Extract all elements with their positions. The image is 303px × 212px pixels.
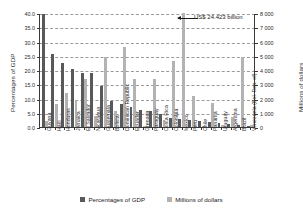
y-axis-left-tick-label: 10.0 — [9, 97, 35, 103]
x-axis-category-label: Honduras — [65, 108, 71, 131]
y-axis-right-tick — [255, 43, 258, 44]
chart-legend: Percentages of GDP Millions of dollars — [0, 196, 303, 203]
x-axis-category-label: Mexico — [183, 114, 189, 131]
bar-millions-of-dollars[interactable] — [241, 57, 244, 127]
x-axis-category-label: Nicaragua — [95, 107, 101, 131]
y-axis-right-tick-label: 5 000 — [260, 54, 286, 60]
y-axis-right-tick-label: 4 000 — [260, 68, 286, 74]
y-axis-right-tick-label: 0 — [260, 125, 286, 131]
y-axis-left-tick-label: 15.0 — [9, 82, 35, 88]
x-axis-category-label: Paraguay — [153, 108, 159, 131]
y-axis-right-tick-label: 7 000 — [260, 25, 286, 31]
bar-group[interactable] — [216, 13, 226, 127]
bar-percentage-of-gdp[interactable] — [81, 73, 84, 127]
y-axis-right-tick — [255, 71, 258, 72]
bar-group[interactable] — [196, 13, 206, 127]
bar-percentage-of-gdp[interactable] — [120, 104, 123, 127]
legend-swatch-millions — [167, 197, 172, 202]
y-axis-right-tick-label: 3 000 — [260, 82, 286, 88]
y-axis-right-tick — [255, 14, 258, 15]
bar-millions-of-dollars[interactable] — [182, 13, 185, 127]
bar-percentage-of-gdp[interactable] — [42, 14, 45, 127]
x-axis-category-label: El Salvador — [85, 104, 91, 131]
bar-group[interactable] — [50, 13, 60, 127]
bar-percentage-of-gdp[interactable] — [169, 118, 172, 127]
x-axis-category-label: Chile — [202, 119, 208, 131]
bar-percentage-of-gdp[interactable] — [130, 107, 133, 127]
legend-label-millions: Millions of dollars — [175, 196, 222, 203]
y-axis-left-tick-label: 20.0 — [9, 68, 35, 74]
x-axis-category-label: Dominican Republic — [124, 84, 130, 131]
x-axis-category-label: Venezuela (Bol. Rep. of) — [251, 74, 257, 131]
x-axis-category-label: Uruguay — [222, 111, 228, 131]
y-axis-left-tick-label: 30.0 — [9, 40, 35, 46]
x-axis-category-label: Grenada — [144, 110, 150, 131]
bar-group[interactable] — [40, 13, 50, 127]
x-axis-category-label: Panama — [212, 111, 218, 131]
y-axis-left-tick-label: 5.0 — [9, 111, 35, 117]
legend-swatch-percentages — [80, 197, 85, 202]
y-axis-right-title: Millions of dollars — [297, 63, 303, 112]
bar-percentage-of-gdp[interactable] — [71, 69, 74, 127]
y-axis-left-tick — [37, 128, 40, 129]
bar-group[interactable] — [187, 13, 197, 127]
x-axis-category-label: Brazil — [241, 118, 247, 131]
y-axis-right-tick — [255, 57, 258, 58]
y-axis-right-tick — [255, 28, 258, 29]
x-axis-category-label: Jamaica — [75, 111, 81, 131]
y-axis-right-tick-label: 1 000 — [260, 111, 286, 117]
y-axis-left-tick-label: 40.0 — [9, 11, 35, 17]
x-axis-category-label: Guyana — [46, 113, 52, 131]
y-axis-left-tick-label: 25.0 — [9, 54, 35, 60]
x-axis-category-label: Peru — [192, 120, 198, 131]
y-axis-right-tick-label: 6 000 — [260, 40, 286, 46]
x-axis-category-label: Guatemala — [105, 105, 111, 131]
x-axis-category-label: Costa Rica — [163, 105, 169, 131]
legend-label-percentages: Percentages of GDP — [88, 196, 145, 203]
annotation-label: US$ 24.423 billion — [194, 14, 243, 20]
x-axis-category-label: Bolivia — [114, 115, 120, 131]
bar-percentage-of-gdp[interactable] — [159, 114, 162, 127]
y-axis-left-tick-label: 0.0 — [9, 125, 35, 131]
x-axis-category-label: Haiti — [56, 120, 62, 131]
x-axis-category-label: Ecuador — [134, 111, 140, 131]
y-axis-right-tick-label: 2 000 — [260, 97, 286, 103]
legend-item-percentages: Percentages of GDP — [80, 196, 145, 203]
x-axis-category-label: Colombia — [173, 109, 179, 131]
x-axis-category-label: Argentina — [232, 108, 238, 131]
y-axis-right-tick-label: 8 000 — [260, 11, 286, 17]
bar-group[interactable] — [206, 13, 216, 127]
remittances-chart: Percentages of GDP Millions of dollars 0… — [0, 0, 303, 212]
bar-percentage-of-gdp[interactable] — [61, 63, 64, 127]
y-axis-left-tick-label: 35.0 — [9, 25, 35, 31]
legend-item-millions: Millions of dollars — [167, 196, 222, 203]
